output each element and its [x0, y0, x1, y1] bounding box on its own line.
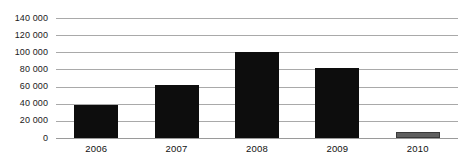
bar-2008: [235, 52, 279, 138]
x-axis-tick-label-2007: 2007: [136, 143, 216, 154]
x-axis-tick-label-2009: 2009: [297, 143, 377, 154]
axis-baseline: [56, 138, 458, 139]
bar-2006: [74, 105, 118, 138]
y-axis-tick-label: 80 000: [0, 65, 48, 74]
x-axis-tick-labels: 20062007200820092010: [56, 143, 458, 159]
x-axis-tick-label-2006: 2006: [56, 143, 136, 154]
y-axis-tick-label: 20 000: [0, 116, 48, 125]
y-axis-tick-label: 40 000: [0, 99, 48, 108]
gridline: [56, 18, 458, 19]
y-axis-tick-label: 140 000: [0, 14, 48, 23]
y-axis-tick-labels: 020 00040 00060 00080 000100 000120 0001…: [0, 18, 48, 138]
bar-2007: [155, 85, 199, 138]
y-axis-tick-label: 120 000: [0, 31, 48, 40]
y-axis-tick-label: 0: [0, 134, 48, 143]
x-axis-tick-label-2010: 2010: [378, 143, 458, 154]
bar-2010: [396, 132, 440, 138]
bar-2009: [315, 68, 359, 138]
bar-chart: 020 00040 00060 00080 000100 000120 0001…: [0, 0, 475, 168]
y-axis-tick-label: 100 000: [0, 48, 48, 57]
x-axis-tick-label-2008: 2008: [217, 143, 297, 154]
y-axis-tick-label: 60 000: [0, 82, 48, 91]
plot-area: [56, 18, 458, 138]
gridline: [56, 35, 458, 36]
